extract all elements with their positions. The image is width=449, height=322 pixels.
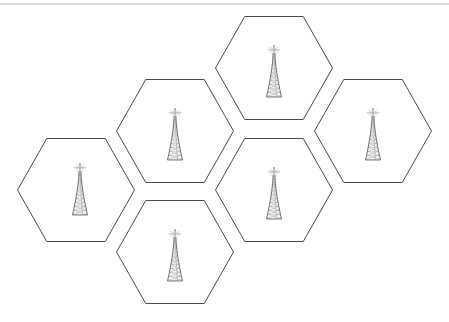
hexagon-coverage-diagram <box>0 0 449 322</box>
diagram-canvas <box>0 0 449 322</box>
tower-tip <box>273 167 275 169</box>
tower-tip <box>174 229 176 231</box>
tower-tip <box>79 163 81 165</box>
tower-tip <box>273 45 275 47</box>
tower-tip <box>174 108 176 110</box>
tower-tip <box>372 108 374 110</box>
